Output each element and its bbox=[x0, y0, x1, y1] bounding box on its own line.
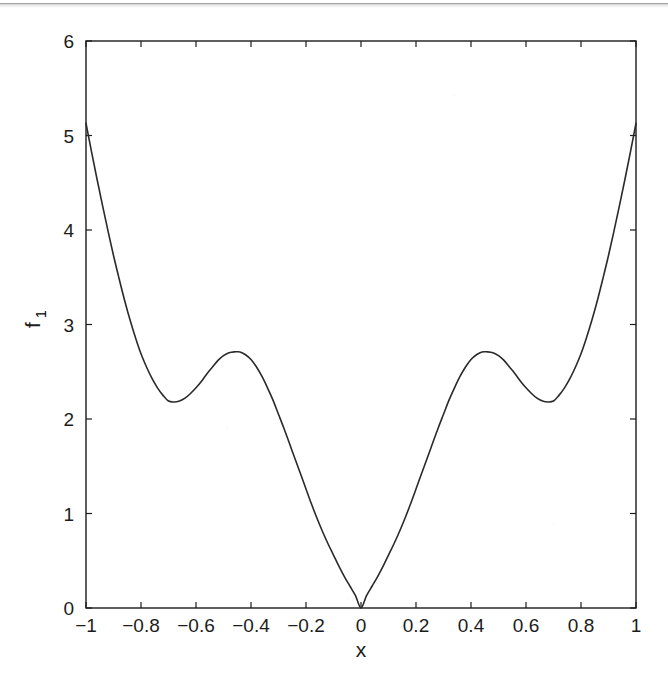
y-axis-title: f bbox=[21, 322, 44, 328]
axes-frame bbox=[86, 41, 636, 608]
figure-panel: −1−0.8−0.6−0.4−0.200.20.40.60.81 0123456… bbox=[0, 0, 668, 680]
x-tick-label: 1 bbox=[631, 615, 642, 636]
y-axis-title-subscript: 1 bbox=[33, 310, 49, 318]
y-tick-label: 1 bbox=[63, 504, 74, 525]
y-tick-label: 6 bbox=[63, 31, 74, 52]
x-tick-label: 0 bbox=[356, 615, 367, 636]
x-axis-tick-labels: −1−0.8−0.6−0.4−0.200.20.40.60.81 bbox=[75, 615, 641, 636]
y-tick-label: 0 bbox=[63, 598, 74, 619]
y-tick-label: 4 bbox=[63, 220, 74, 241]
y-axis-title-group: f 1 bbox=[21, 310, 49, 328]
x-tick-label: −0.6 bbox=[177, 615, 215, 636]
plot-canvas: −1−0.8−0.6−0.4−0.200.20.40.60.81 0123456… bbox=[0, 0, 668, 680]
x-tick-label: −0.4 bbox=[232, 615, 270, 636]
y-tick-label: 3 bbox=[63, 315, 74, 336]
x-axis-title: x bbox=[356, 638, 367, 661]
x-tick-label: 0.2 bbox=[403, 615, 429, 636]
x-tick-label: −0.8 bbox=[122, 615, 160, 636]
data-series-f1 bbox=[86, 123, 636, 608]
x-tick-label: −0.2 bbox=[287, 615, 325, 636]
x-tick-label: 0.8 bbox=[568, 615, 594, 636]
x-tick-label: 0.4 bbox=[458, 615, 485, 636]
x-tick-label: −1 bbox=[75, 615, 97, 636]
y-axis-tick-labels: 0123456 bbox=[63, 31, 74, 619]
y-axis-ticks bbox=[86, 41, 636, 608]
x-tick-label: 0.6 bbox=[513, 615, 539, 636]
y-tick-label: 2 bbox=[63, 409, 74, 430]
x-axis-ticks bbox=[86, 41, 636, 608]
y-tick-label: 5 bbox=[63, 126, 74, 147]
